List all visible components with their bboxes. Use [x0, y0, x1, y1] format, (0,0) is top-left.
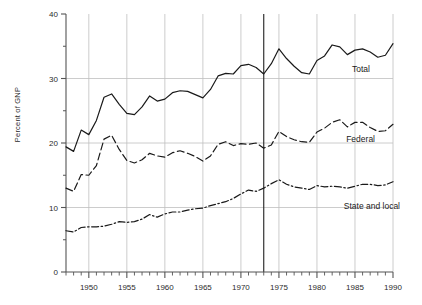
x-tick-label: 1950 — [80, 283, 98, 292]
x-axis-ticks: 195019551960196519701975198019851990 — [66, 272, 402, 292]
y-tick-label: 40 — [49, 10, 58, 19]
series-label-total: Total — [352, 64, 370, 74]
chart-figure: Percent of GNP 0102030401950195519601965… — [0, 0, 422, 305]
line-chart-plot: 0102030401950195519601965197019751980198… — [0, 0, 422, 305]
x-tick-label: 1955 — [118, 283, 136, 292]
series-labels: TotalFederalState and local — [344, 64, 400, 211]
x-tick-label: 1980 — [308, 283, 326, 292]
x-tick-label: 1970 — [232, 283, 250, 292]
y-axis-ticks: 010203040 — [49, 10, 66, 277]
x-tick-label: 1975 — [270, 283, 288, 292]
y-tick-label: 30 — [49, 75, 58, 84]
x-tick-label: 1965 — [194, 283, 212, 292]
y-axis-label: Percent of GNP — [13, 60, 22, 170]
series-line-federal — [66, 120, 393, 192]
y-tick-label: 20 — [49, 139, 58, 148]
x-tick-label: 1960 — [156, 283, 174, 292]
x-tick-label: 1990 — [384, 283, 402, 292]
y-tick-label: 10 — [49, 204, 58, 213]
series-line-total — [66, 44, 393, 152]
series-label-federal: Federal — [346, 134, 375, 144]
y-tick-label: 0 — [54, 268, 59, 277]
x-tick-label: 1985 — [346, 283, 364, 292]
series-label-state-and-local: State and local — [344, 201, 400, 211]
